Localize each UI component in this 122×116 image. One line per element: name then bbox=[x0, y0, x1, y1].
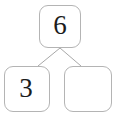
number-bond-diagram: 6 3 bbox=[0, 0, 122, 116]
connector-left-line bbox=[38, 48, 60, 66]
whole-box-value: 6 bbox=[53, 12, 67, 39]
part-box-right[interactable] bbox=[64, 66, 112, 112]
part-box-left[interactable]: 3 bbox=[4, 66, 50, 112]
part-box-left-value: 3 bbox=[19, 75, 33, 102]
whole-box[interactable]: 6 bbox=[39, 5, 81, 48]
connector-right-line bbox=[60, 48, 81, 66]
